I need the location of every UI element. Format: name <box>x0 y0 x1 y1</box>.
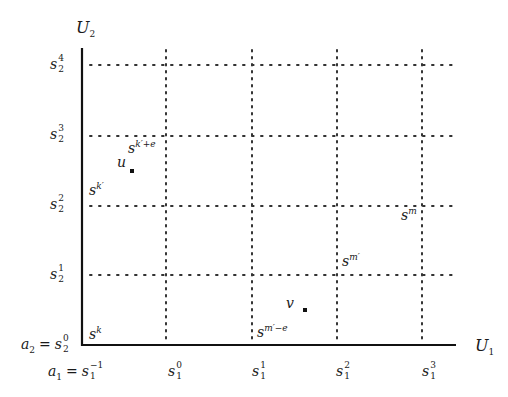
y-tick-s2-1: s12 <box>50 266 64 284</box>
state-label-s-k: sk <box>89 326 102 341</box>
y-tick-s2-2: s22 <box>50 196 64 214</box>
state-label-s-kprime: sk′ <box>89 182 104 197</box>
x-axis-label: U1 <box>475 338 494 357</box>
y-origin-label: a2=s02 <box>21 336 69 355</box>
grid-diagram <box>0 0 508 397</box>
y-axis-label: U2 <box>76 20 95 39</box>
x-tick-s1-1: s11 <box>252 363 266 381</box>
point-u-marker <box>130 169 134 173</box>
state-label-s-m: sm <box>401 207 417 222</box>
point-v-marker <box>303 308 307 312</box>
y-tick-s2-4: s42 <box>50 56 64 74</box>
x-tick-s1-3: s31 <box>422 363 436 381</box>
x-tick-s1-0: s01 <box>168 363 182 381</box>
state-label-s-kprime-plus-e: sk′+e <box>128 140 156 155</box>
horizontal-grid-lines <box>90 65 458 275</box>
state-label-s-mprime: sm′ <box>342 253 360 268</box>
point-u-label: u <box>117 155 126 169</box>
x-tick-s1-2: s21 <box>336 363 350 381</box>
state-label-s-mprime-minus-e: sm′−e <box>257 324 288 339</box>
vertical-grid-lines <box>166 50 422 340</box>
x-origin-label: a1=s−11 <box>48 363 103 382</box>
y-tick-s2-3: s32 <box>50 126 64 144</box>
point-v-label: v <box>286 296 294 310</box>
